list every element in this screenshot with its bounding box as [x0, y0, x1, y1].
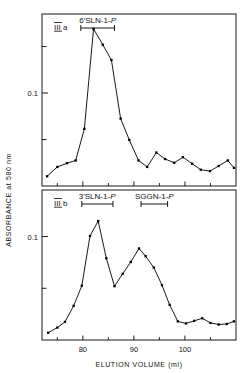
- x-tick-label: 80: [79, 345, 87, 354]
- data-point: [233, 167, 235, 169]
- series-range-label: 3'SLN-1-P: [79, 192, 116, 201]
- data-point: [173, 162, 175, 164]
- data-point: [89, 235, 91, 237]
- chart-canvas: 0.16'SLN-1-PIII a0.13'SLN-1-PSGGN-1-PIII…: [0, 0, 248, 373]
- data-point: [201, 317, 203, 319]
- data-point: [233, 320, 235, 322]
- data-point: [168, 304, 170, 306]
- data-point: [110, 59, 112, 61]
- data-line-bottom: [48, 221, 234, 333]
- series-range-label: SGGN-1-P: [135, 192, 174, 201]
- data-point: [97, 220, 99, 222]
- y-tick-label-top: 0.1: [28, 89, 38, 98]
- y-tick-label-bottom: 0.1: [28, 233, 38, 242]
- data-point: [47, 332, 49, 334]
- data-point: [119, 117, 121, 119]
- plot-frame-bottom: [42, 190, 236, 340]
- series-range-label: 6'SLN-1-P: [79, 16, 116, 25]
- data-point: [209, 322, 211, 324]
- data-point: [227, 159, 229, 161]
- data-point: [193, 320, 195, 322]
- data-point: [161, 284, 163, 286]
- data-point: [191, 163, 193, 165]
- data-point: [128, 139, 130, 141]
- x-axis-title: ELUTION VOLUME (ml): [95, 361, 182, 369]
- y-axis-title: ABSORBANCE at 580 nm: [5, 153, 12, 247]
- data-point: [177, 320, 179, 322]
- x-tick-label: 100: [179, 345, 192, 354]
- data-point: [200, 169, 202, 171]
- svg-text:III a: III a: [54, 23, 68, 32]
- data-point: [144, 255, 146, 257]
- data-point: [73, 305, 75, 307]
- data-point: [217, 323, 219, 325]
- data-point: [155, 151, 157, 153]
- data-point: [226, 323, 228, 325]
- data-point: [75, 159, 77, 161]
- data-point: [153, 266, 155, 268]
- data-point: [102, 44, 104, 46]
- data-point: [122, 273, 124, 275]
- svg-text:III b: III b: [54, 199, 68, 208]
- data-point: [64, 321, 66, 323]
- data-point: [182, 156, 184, 158]
- panel-label-top: III a: [54, 23, 68, 33]
- data-point: [217, 165, 219, 167]
- data-point: [46, 175, 48, 177]
- data-point: [130, 261, 132, 263]
- data-line-top: [47, 29, 234, 176]
- data-point: [137, 159, 139, 161]
- data-point: [56, 326, 58, 328]
- elution-profile-figure: 0.16'SLN-1-PIII a0.13'SLN-1-PSGGN-1-PIII…: [0, 0, 248, 373]
- x-tick-label: 90: [130, 345, 138, 354]
- data-point: [66, 162, 68, 164]
- data-point: [138, 247, 140, 249]
- panel-label-bottom: III b: [54, 199, 68, 209]
- data-point: [83, 128, 85, 130]
- data-point: [92, 28, 94, 30]
- data-point: [113, 285, 115, 287]
- data-point: [164, 158, 166, 160]
- data-point: [105, 257, 107, 259]
- data-point: [185, 322, 187, 324]
- data-point: [56, 166, 58, 168]
- data-point: [146, 166, 148, 168]
- data-point: [209, 170, 211, 172]
- data-point: [81, 285, 83, 287]
